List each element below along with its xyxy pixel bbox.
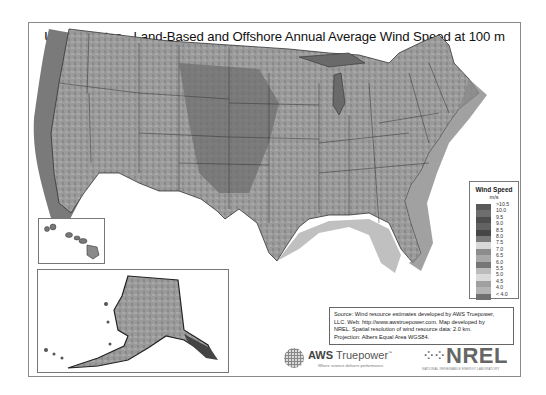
aws-truepower-logo: AWS Truepower™ Where science delivers pe… [284, 345, 424, 373]
wind-speed-legend: Wind Speed m/s >10.510.09.59.08.58.07.57… [469, 181, 519, 299]
alaska-landmass [38, 270, 228, 372]
legend-label: 7.5 [496, 239, 503, 245]
legend-unit: m/s [470, 194, 518, 200]
aws-name: Truepower [336, 349, 388, 361]
nrel-wordmark: NREL [446, 343, 508, 369]
legend-label: 9.5 [496, 214, 503, 220]
source-note: Source: Wind resource estimates develope… [329, 307, 514, 345]
legend-swatch [476, 294, 491, 301]
aws-dots-icon [284, 348, 304, 368]
legend-label: 10.0 [496, 207, 506, 213]
aws-tagline: Where science delivers performance. [318, 363, 384, 368]
legend-label: 8.5 [496, 227, 503, 233]
legend-label: 5.5 [496, 265, 503, 271]
legend-label: 4.5 [496, 278, 503, 284]
legend-label: < 4.0 [496, 291, 508, 297]
nrel-logo: ⁘⁘ NREL NATIONAL RENEWABLE ENERGY LABORA… [422, 343, 522, 373]
hawaii-islands [39, 219, 104, 263]
nrel-subtitle: NATIONAL RENEWABLE ENERGY LABORATORY [422, 367, 500, 371]
legend-label: 5.0 [496, 271, 503, 277]
legend-label: 6.5 [496, 252, 503, 258]
source-line-1: Source: Wind resource estimates develope… [334, 311, 509, 319]
legend-title: Wind Speed [470, 186, 518, 194]
legend-label: 4.0 [496, 284, 503, 290]
aws-tm: ™ [388, 350, 392, 355]
legend-label: >10.5 [496, 201, 509, 207]
source-line-2: LLC. Web: http://www.awstruepower.com. M… [334, 319, 509, 327]
source-line-3: NREL. Spatial resolution of wind resourc… [334, 326, 509, 334]
legend-label: 9.0 [496, 220, 503, 226]
hawaii-inset [38, 218, 105, 264]
map-frame: United States - Land-Based and Offshore … [28, 22, 521, 377]
legend-label: 7.0 [496, 246, 503, 252]
source-line-4: Projection: Albers Equal Area WGS84. [334, 334, 509, 342]
alaska-inset [37, 269, 229, 373]
legend-label: 8.0 [496, 233, 503, 239]
aws-prefix: AWS [308, 349, 333, 361]
legend-label: 6.0 [496, 259, 503, 265]
nrel-mark-icon: ⁘⁘ [422, 347, 444, 365]
